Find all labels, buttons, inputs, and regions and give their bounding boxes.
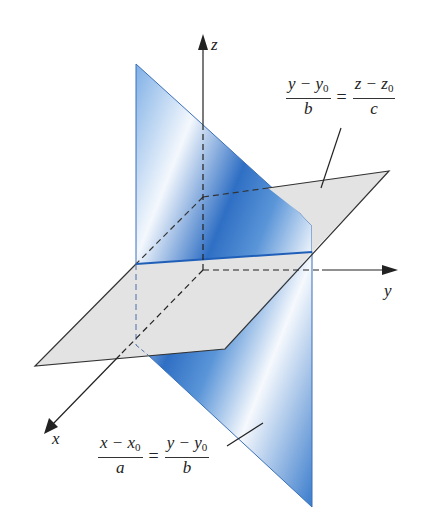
z-axis-arrow-icon <box>198 34 208 50</box>
bottom-left-subscript: 0 <box>135 441 141 453</box>
z-axis-label: z <box>210 35 218 54</box>
top-plane-equation: y − y0 b = z − z0 c <box>286 75 395 119</box>
top-left-denominator: b <box>304 99 313 119</box>
bottom-equals: = <box>149 446 159 467</box>
top-right-denominator: c <box>370 99 378 119</box>
y-axis-arrow-icon <box>382 265 398 275</box>
top-equals: = <box>337 87 347 108</box>
top-left-numerator: y − y <box>288 74 323 93</box>
top-right-subscript: 0 <box>388 82 394 94</box>
bottom-right-subscript: 0 <box>202 441 208 453</box>
top-left-subscript: 0 <box>323 82 329 94</box>
bottom-left-numerator: x − x <box>100 433 135 452</box>
bottom-left-denominator: a <box>116 458 125 478</box>
x-axis <box>51 355 120 426</box>
x-axis-label: x <box>51 429 60 448</box>
top-right-numerator: z − z <box>355 74 388 93</box>
bottom-plane-equation: x − x0 a = y − y0 b <box>98 434 209 478</box>
bottom-right-numerator: y − y <box>167 433 202 452</box>
y-axis-label: y <box>382 281 392 300</box>
bottom-right-denominator: b <box>183 458 192 478</box>
